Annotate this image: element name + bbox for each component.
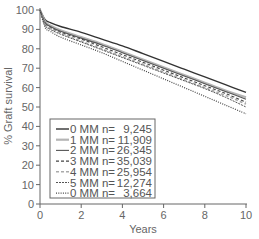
y-tick-label: 70	[22, 62, 34, 74]
legend-count-6: 3,664	[123, 187, 152, 199]
y-tick-label: 60	[22, 82, 34, 94]
y-tick-label: 0	[28, 198, 34, 210]
y-axis-title: % Graft survival	[2, 67, 14, 145]
x-axis-title: Years	[129, 223, 157, 235]
y-tick-label: 40	[22, 120, 34, 132]
series-line-3	[40, 10, 246, 102]
y-tick-label: 50	[22, 101, 34, 113]
series-line-0	[40, 10, 246, 92]
x-tick-label: 10	[240, 209, 252, 221]
x-tick-label: 0	[37, 209, 43, 221]
legend-label-6: 0 MM n=	[70, 187, 115, 199]
x-tick-label: 2	[78, 209, 84, 221]
y-tick-label: 30	[22, 140, 34, 152]
y-tick-label: 100	[16, 4, 34, 16]
series-lines	[40, 10, 246, 114]
y-tick-label: 80	[22, 43, 34, 55]
y-tick-label: 90	[22, 23, 34, 35]
y-tick-label: 20	[22, 159, 34, 171]
x-tick-label: 8	[202, 209, 208, 221]
y-tick-label: 10	[22, 179, 34, 191]
graft-survival-chart: 01020304050607080901000246810 0 MM n=9,2…	[0, 0, 259, 239]
x-tick-label: 4	[119, 209, 125, 221]
legend: 0 MM n=9,2451 MM n=11,9092 MM n=26,3453 …	[50, 119, 155, 199]
x-tick-label: 6	[161, 209, 167, 221]
